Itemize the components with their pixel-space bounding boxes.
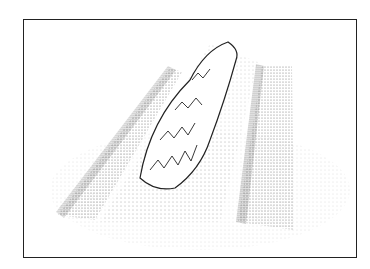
garden-bed-illustration <box>0 0 370 269</box>
